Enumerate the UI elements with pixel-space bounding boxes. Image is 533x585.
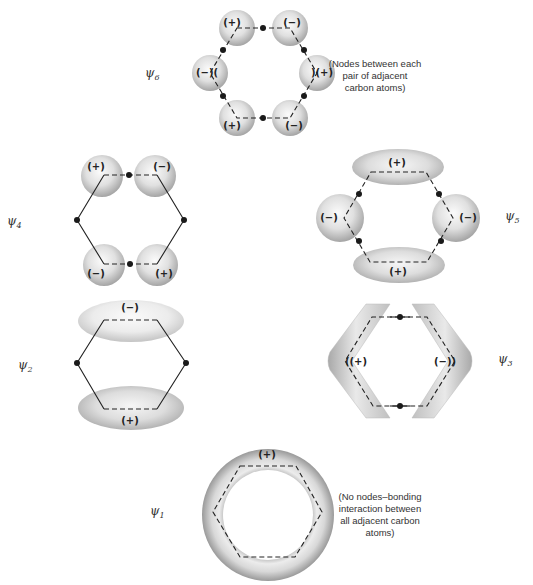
node-dot bbox=[436, 191, 442, 197]
benzene-mo-diagram: ψ6 (+) (−) )(+) (−) (+) (−)( (Nodes betw… bbox=[0, 0, 533, 585]
psi3-label: ψ3 bbox=[498, 352, 513, 368]
node-dot bbox=[260, 115, 266, 121]
sign-label: (−) bbox=[459, 212, 477, 223]
svg-text:all adjacent carbon: all adjacent carbon bbox=[340, 515, 420, 526]
node-dot bbox=[181, 217, 187, 223]
node-dot bbox=[301, 47, 307, 53]
svg-text:(No nodes–bonding: (No nodes–bonding bbox=[339, 491, 422, 502]
node-dot bbox=[438, 238, 444, 244]
svg-text:atoms): atoms) bbox=[365, 527, 394, 538]
sign-label: (−) bbox=[153, 161, 171, 172]
svg-text:carbon atoms): carbon atoms) bbox=[345, 82, 406, 93]
orbital-psi2: ψ2 (−) (+) bbox=[18, 300, 189, 430]
node-dot bbox=[356, 191, 362, 197]
lobe-bottom-left bbox=[83, 244, 125, 286]
svg-text:(Nodes between each: (Nodes between each bbox=[329, 58, 421, 69]
node-dot bbox=[74, 217, 80, 223]
sign-label: (−) bbox=[320, 212, 338, 223]
psi1-label: ψ1 bbox=[150, 504, 165, 520]
lobe-bottom bbox=[353, 247, 445, 283]
orbital-psi6: ψ6 (+) (−) )(+) (−) (+) (−)( (Nodes betw… bbox=[145, 10, 421, 136]
orbital-psi5: ψ5 (+) (−) (−) (+) bbox=[316, 149, 520, 283]
psi6-label: ψ6 bbox=[145, 66, 160, 82]
sign-label: (−) bbox=[285, 120, 303, 131]
sign-label: (+) bbox=[258, 449, 276, 460]
sign-label: (+) bbox=[121, 415, 139, 426]
sign-label: ((+) bbox=[345, 356, 367, 367]
node-dot bbox=[301, 93, 307, 99]
lobe-bottom-right bbox=[136, 244, 178, 286]
sign-label: (−) bbox=[121, 302, 139, 313]
sign-label: (−) bbox=[87, 268, 105, 279]
orbital-psi3: ψ3 ((+) (−)) bbox=[328, 304, 513, 418]
sign-label: (+) bbox=[155, 268, 173, 279]
sign-label: (+) bbox=[87, 161, 105, 172]
node-dot bbox=[126, 172, 132, 178]
node-dot bbox=[220, 93, 226, 99]
orbital-psi1: ψ1 (+) (No nodes–bonding interaction bet… bbox=[150, 449, 421, 581]
node-dot bbox=[74, 360, 80, 366]
node-dot bbox=[356, 238, 362, 244]
psi5-label: ψ5 bbox=[505, 209, 520, 225]
node-dot bbox=[260, 25, 266, 31]
sign-label: (−)( bbox=[196, 67, 218, 78]
sign-label: (+) bbox=[388, 157, 406, 168]
sign-label: (+) bbox=[223, 120, 241, 131]
node-dot bbox=[127, 261, 133, 267]
psi2-label: ψ2 bbox=[18, 358, 33, 374]
sign-label: (+) bbox=[389, 266, 407, 277]
node-dot bbox=[220, 47, 226, 53]
svg-text:pair of adjacent: pair of adjacent bbox=[343, 70, 408, 81]
psi4-label: ψ4 bbox=[7, 214, 22, 230]
node-dot bbox=[183, 360, 189, 366]
node-dot bbox=[397, 314, 403, 320]
ring-hole bbox=[223, 470, 313, 560]
psi6-note: (Nodes between each pair of adjacent car… bbox=[329, 58, 421, 93]
sign-label: (−)) bbox=[434, 356, 456, 367]
orbital-psi4: ψ4 (+) (−) (−) (+) bbox=[7, 155, 187, 286]
sign-label: (−) bbox=[283, 17, 301, 28]
psi1-note: (No nodes–bonding interaction between al… bbox=[339, 491, 422, 538]
node-dot bbox=[397, 403, 403, 409]
svg-text:interaction between: interaction between bbox=[339, 503, 421, 514]
sign-label: (+) bbox=[223, 17, 241, 28]
